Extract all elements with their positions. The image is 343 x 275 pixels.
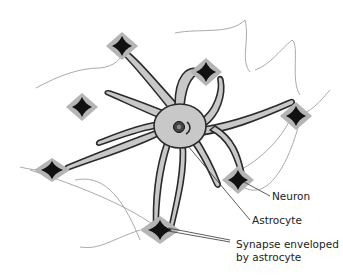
label-synapse-line1: Synapse enveloped <box>236 238 339 250</box>
label-synapse-line2: by astrocyte <box>236 251 301 263</box>
diagram-canvas <box>0 0 343 275</box>
astrocyte <box>65 45 294 238</box>
label-neuron: Neuron <box>272 190 310 202</box>
neuron-icon <box>66 93 98 121</box>
astrocyte-diagram: Neuron Astrocyte Synapse enveloped by as… <box>0 0 343 275</box>
label-astrocyte: Astrocyte <box>252 214 302 226</box>
neuron-icon <box>190 58 222 86</box>
neuron-icon <box>34 158 70 182</box>
